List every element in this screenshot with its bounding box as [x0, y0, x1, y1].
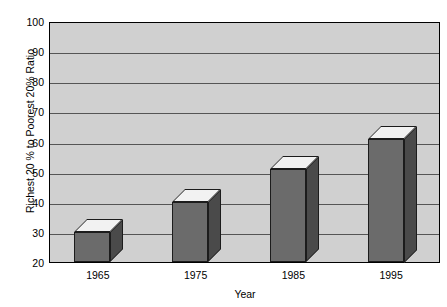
bar-front-face [368, 139, 404, 263]
y-axis-tick-label: 50 [4, 167, 44, 179]
plot-area [49, 22, 440, 263]
bar-front-face [172, 202, 208, 262]
bar [172, 202, 221, 275]
y-axis-tick-label: 90 [4, 46, 44, 58]
y-axis-tick-labels: 1009080706050403020 [0, 22, 44, 263]
x-axis-tick-label: 1985 [282, 269, 305, 281]
bar-side-face [306, 156, 319, 262]
bar-front-face [270, 169, 306, 262]
bar [270, 169, 319, 275]
x-axis-tick-label: 1965 [86, 269, 109, 281]
y-axis-tick-label: 70 [4, 106, 44, 118]
y-axis-tick-label: 30 [4, 227, 44, 239]
bar-chart: Richest 20 % to Poorest 20% Ratio 100908… [0, 0, 447, 307]
bar [368, 139, 417, 276]
x-axis-tick-label: 1995 [379, 269, 402, 281]
x-axis-tick-label: 1975 [184, 269, 207, 281]
bar-side-face [404, 126, 417, 263]
y-axis-tick-label: 40 [4, 197, 44, 209]
y-axis-tick-label: 60 [4, 137, 44, 149]
y-axis-tick-label: 80 [4, 76, 44, 88]
bar-front-face [74, 232, 110, 262]
bar-series [50, 34, 439, 275]
y-axis-tick-label: 100 [4, 16, 44, 28]
y-axis-tick-label: 20 [4, 257, 44, 269]
x-axis-title: Year [49, 288, 441, 300]
